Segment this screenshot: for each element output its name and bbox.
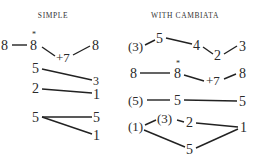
- cambiata-r1-a: (3): [128, 39, 143, 54]
- cambiata-r2-b: 8: [174, 66, 181, 81]
- cambiata-r4-c: 2: [186, 115, 193, 130]
- simple-r2-b: 3: [93, 74, 99, 88]
- cambiata-r2-c: +7: [206, 73, 220, 88]
- header-simple: SIMPLE: [38, 11, 68, 20]
- cambiata-r4-e: 5: [186, 142, 193, 157]
- cambiata-r1-c: 4: [193, 38, 200, 53]
- cambiata-row-2: 8 8 * +7 8: [130, 59, 246, 88]
- simple-r1-a: 8: [1, 38, 8, 53]
- simple-r4-b: 5: [93, 110, 100, 125]
- simple-r1-c: +7: [56, 50, 70, 65]
- simple-row-2: 5 3: [32, 61, 99, 88]
- cambiata-r2-asterisk: *: [176, 59, 180, 68]
- simple-row-3: 2 1: [32, 81, 100, 102]
- cambiata-row-1: (3) 5 4 2 3: [128, 31, 246, 63]
- voice-leading-diagram: SIMPLE WITH CAMBIATA 8 8 * +7 8 5 3 2 1 …: [0, 0, 256, 162]
- cambiata-r4-d: 1: [240, 120, 247, 135]
- cambiata-r1-d: 2: [214, 48, 221, 63]
- cambiata-r1-e: 3: [239, 39, 246, 54]
- simple-r4-a: 5: [32, 110, 39, 125]
- simple-r1-d: 8: [92, 38, 99, 53]
- simple-r3-a: 2: [32, 81, 39, 96]
- simple-row-1: 8 8 * +7 8: [1, 30, 99, 65]
- cambiata-r4-b: (3): [157, 111, 172, 126]
- simple-row-4: 5 5 1: [32, 110, 100, 143]
- simple-r3-b: 1: [93, 87, 100, 102]
- cambiata-r1-b: 5: [156, 31, 163, 46]
- header-cambiata: WITH CAMBIATA: [151, 11, 219, 20]
- cambiata-r3-a: (5): [128, 93, 143, 108]
- simple-r1-asterisk: *: [32, 30, 36, 39]
- simple-r4-c: 1: [93, 128, 100, 143]
- cambiata-r2-a: 8: [130, 66, 137, 81]
- cambiata-r3-c: 5: [239, 94, 246, 109]
- cambiata-r3-b: 5: [174, 93, 181, 108]
- simple-r1-b: 8: [30, 38, 37, 53]
- cambiata-r2-d: 8: [239, 66, 246, 81]
- cambiata-row-4: (1) (3) 2 1 5: [128, 111, 247, 157]
- cambiata-row-3: (5) 5 5: [128, 93, 246, 109]
- cambiata-r4-a: (1): [128, 119, 143, 134]
- simple-r2-a: 5: [32, 61, 39, 76]
